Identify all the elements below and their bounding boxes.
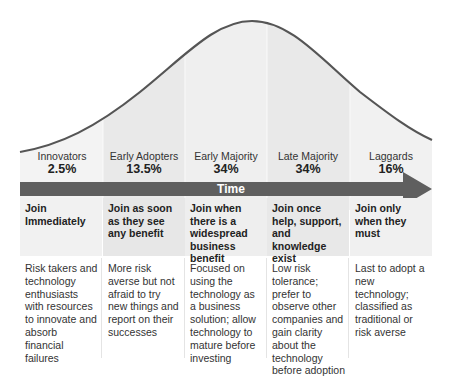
join-timing-early-adopters: Join as soon as they see any benefit (103, 198, 185, 256)
description-laggards: Last to adopt a new technology; classifi… (350, 258, 432, 358)
segment-name: Laggards (369, 150, 413, 162)
segment-name: Early Majority (194, 150, 258, 162)
join-timing-early-majority: Join when there is a widespread business… (185, 198, 267, 256)
segment-name: Innovators (37, 150, 86, 162)
join-timing-laggards: Join only when they must (350, 198, 432, 256)
segment-name: Late Majority (278, 150, 338, 162)
description-early-adopters: More risk averse but not afraid to try n… (103, 258, 185, 358)
time-label: Time (0, 181, 450, 197)
description-innovators: Risk takers and technology enthusiasts w… (20, 258, 102, 358)
description-late-majority: Low risk tolerance; prefer to observe ot… (267, 258, 349, 358)
description-early-majority: Focused on using the technology as a bus… (185, 258, 267, 358)
segment-name: Early Adopters (110, 150, 178, 162)
join-timing-late-majority: Join once help, support, and knowledge e… (267, 198, 349, 256)
join-timing-innovators: Join Immediately (20, 198, 102, 256)
